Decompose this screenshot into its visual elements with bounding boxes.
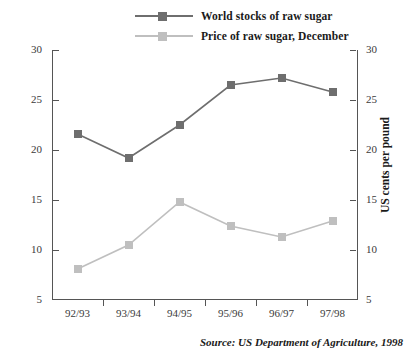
source-note: Source: US Department of Agriculture, 19… bbox=[200, 336, 403, 348]
x-axis-tick bbox=[154, 300, 155, 306]
y-axis-tick-label-right: 5 bbox=[366, 294, 396, 305]
legend-key-world-stocks bbox=[135, 10, 193, 22]
y-axis-tick-label-left: 15 bbox=[12, 194, 42, 205]
y-axis-tick-label-right: 30 bbox=[366, 44, 396, 55]
data-point-marker bbox=[176, 121, 184, 129]
chart-legend: World stocks of raw sugar Price of raw s… bbox=[135, 6, 405, 46]
x-axis-tick bbox=[103, 300, 104, 306]
y-axis-tick-label-left: 5 bbox=[12, 294, 42, 305]
legend-label-world-stocks: World stocks of raw sugar bbox=[201, 10, 333, 22]
y-axis-tick-label-right: 10 bbox=[366, 244, 396, 255]
legend-key-price bbox=[135, 30, 193, 42]
x-axis-tick bbox=[205, 300, 206, 306]
data-point-marker bbox=[227, 222, 235, 230]
y-axis-tick-label-left: 30 bbox=[12, 44, 42, 55]
y-axis-tick-label-left: 20 bbox=[12, 144, 42, 155]
data-point-marker bbox=[74, 130, 82, 138]
x-axis-tick bbox=[256, 300, 257, 306]
data-point-marker bbox=[125, 241, 133, 249]
y-axis-tick-label-right: 25 bbox=[366, 94, 396, 105]
chart-container: World stocks of raw sugar Price of raw s… bbox=[0, 0, 411, 354]
data-point-marker bbox=[176, 198, 184, 206]
series-line bbox=[78, 202, 333, 269]
y-axis-tick-label-left: 25 bbox=[12, 94, 42, 105]
legend-item-world-stocks: World stocks of raw sugar bbox=[135, 6, 405, 26]
legend-item-price: Price of raw sugar, December bbox=[135, 26, 405, 46]
data-point-marker bbox=[74, 265, 82, 273]
series-layer bbox=[52, 50, 358, 300]
data-point-marker bbox=[227, 81, 235, 89]
series-line bbox=[78, 78, 333, 158]
plot-area: 551010151520202525303092/9393/9494/9595/… bbox=[52, 50, 358, 300]
legend-label-price: Price of raw sugar, December bbox=[201, 30, 349, 42]
legend-square-marker-icon bbox=[158, 12, 167, 21]
data-point-marker bbox=[329, 88, 337, 96]
data-point-marker bbox=[329, 217, 337, 225]
data-point-marker bbox=[278, 233, 286, 241]
legend-square-marker-icon bbox=[158, 32, 167, 41]
y-axis-tick-label-right: 20 bbox=[366, 144, 396, 155]
y-axis-tick-label-right: 15 bbox=[366, 194, 396, 205]
data-point-marker bbox=[125, 154, 133, 162]
x-axis-tick-label: 97/98 bbox=[303, 308, 363, 319]
y-axis-tick-label-left: 10 bbox=[12, 244, 42, 255]
data-point-marker bbox=[278, 74, 286, 82]
x-axis-tick bbox=[307, 300, 308, 306]
